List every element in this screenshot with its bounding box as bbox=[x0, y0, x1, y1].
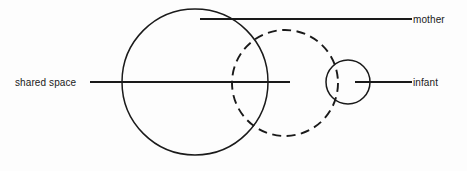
diagram-canvas: shared space mother infant bbox=[0, 0, 467, 171]
shared-space-circle bbox=[232, 30, 338, 136]
label-infant: infant bbox=[413, 77, 438, 88]
label-mother: mother bbox=[413, 14, 445, 25]
label-shared-space: shared space bbox=[15, 77, 76, 88]
